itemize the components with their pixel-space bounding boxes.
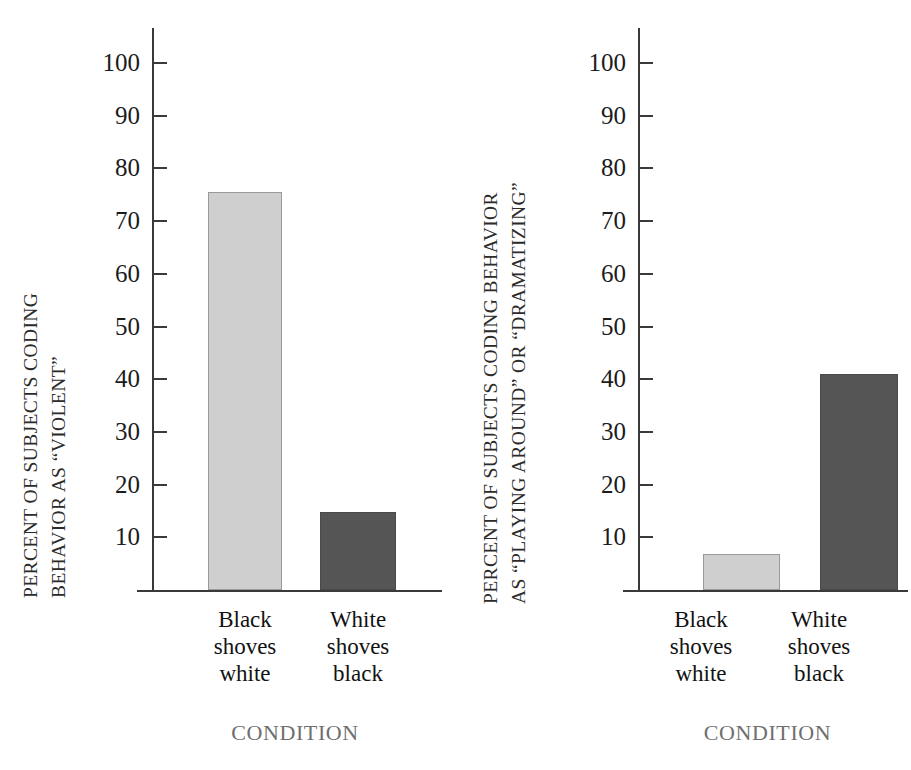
bar-left-white-shoves-black	[320, 512, 396, 590]
y-tick-40	[154, 378, 167, 380]
y-tick-label-10: 10	[60, 524, 140, 549]
y-tick-50	[154, 326, 167, 328]
category-label-right-1: Black shoves white	[641, 607, 761, 688]
category-label-right-1-line3: white	[641, 661, 761, 688]
y-axis-label-right: PERCENT OF SUBJECTS CODING BEHAVIOR	[480, 192, 502, 604]
y-tick-label-40: 40	[546, 366, 626, 391]
category-label-right-1-line1: Black	[641, 607, 761, 634]
y-tick-70	[154, 220, 167, 222]
y-tick-30	[154, 431, 167, 433]
y-tick-label-80: 80	[60, 155, 140, 180]
y-tick-label-30: 30	[546, 419, 626, 444]
y-tick-label-10: 10	[546, 524, 626, 549]
y-tick-label-100: 100	[60, 50, 140, 75]
category-label-left-1-line2: shoves	[185, 634, 305, 661]
y-tick-label-90: 90	[60, 103, 140, 128]
y-axis-line-right	[638, 28, 640, 592]
y-tick-label-20: 20	[546, 472, 626, 497]
category-label-left-2-line1: White	[298, 607, 418, 634]
category-label-right-2-line3: black	[759, 661, 879, 688]
x-axis-line-left	[137, 590, 442, 592]
y-tick-label-80: 80	[546, 155, 626, 180]
chart-panel-left: PERCENT OF SUBJECTS CODING BEHAVIOR AS “…	[0, 0, 460, 770]
category-label-left-2-line2: shoves	[298, 634, 418, 661]
x-axis-title-right: CONDITION	[625, 720, 910, 746]
y-axis-label-left: PERCENT OF SUBJECTS CODING	[20, 293, 42, 598]
category-label-left-2-line3: black	[298, 661, 418, 688]
category-label-left-1: Black shoves white	[185, 607, 305, 688]
y-tick-10	[154, 536, 167, 538]
category-label-right-2: White shoves black	[759, 607, 879, 688]
y-tick-80	[640, 167, 653, 169]
y-tick-20	[640, 484, 653, 486]
category-label-left-1-line3: white	[185, 661, 305, 688]
y-tick-label-100: 100	[546, 50, 626, 75]
category-label-left-2: White shoves black	[298, 607, 418, 688]
y-tick-label-20: 20	[60, 472, 140, 497]
category-label-left-1-line1: Black	[185, 607, 305, 634]
y-tick-label-50: 50	[60, 314, 140, 339]
y-tick-label-40: 40	[60, 366, 140, 391]
category-label-right-1-line2: shoves	[641, 634, 761, 661]
category-label-right-2-line2: shoves	[759, 634, 879, 661]
category-label-right-2-line1: White	[759, 607, 879, 634]
y-tick-20	[154, 484, 167, 486]
y-tick-70	[640, 220, 653, 222]
y-axis-label-right-second: AS “PLAYING AROUND” OR “DRAMATIZING”	[508, 182, 530, 604]
y-axis-line-left	[152, 28, 154, 592]
chart-panel-right: PERCENT OF SUBJECTS CODING BEHAVIOR AS “…	[460, 0, 911, 770]
y-tick-60	[640, 273, 653, 275]
y-tick-label-50: 50	[546, 314, 626, 339]
figure-two-bar-charts: PERCENT OF SUBJECTS CODING BEHAVIOR AS “…	[0, 0, 911, 770]
y-tick-90	[154, 115, 167, 117]
y-tick-80	[154, 167, 167, 169]
y-tick-label-70: 70	[546, 208, 626, 233]
y-tick-60	[154, 273, 167, 275]
y-tick-50	[640, 326, 653, 328]
y-tick-100	[154, 62, 167, 64]
y-tick-30	[640, 431, 653, 433]
y-tick-40	[640, 378, 653, 380]
y-tick-90	[640, 115, 653, 117]
bar-right-black-shoves-white	[703, 554, 780, 590]
y-tick-10	[640, 536, 653, 538]
y-tick-label-90: 90	[546, 103, 626, 128]
y-tick-label-70: 70	[60, 208, 140, 233]
bar-left-black-shoves-white	[208, 192, 282, 590]
y-axis-label-right-line2: AS “PLAYING AROUND” OR “DRAMATIZING”	[508, 182, 529, 604]
y-tick-label-60: 60	[546, 261, 626, 286]
y-tick-label-60: 60	[60, 261, 140, 286]
bar-right-white-shoves-black	[820, 374, 898, 590]
y-axis-label-left-line1: PERCENT OF SUBJECTS CODING	[20, 293, 41, 598]
y-tick-100	[640, 62, 653, 64]
y-tick-label-30: 30	[60, 419, 140, 444]
x-axis-title-left: CONDITION	[150, 720, 440, 746]
x-axis-line-right	[623, 590, 908, 592]
y-axis-label-right-line1: PERCENT OF SUBJECTS CODING BEHAVIOR	[480, 192, 501, 604]
